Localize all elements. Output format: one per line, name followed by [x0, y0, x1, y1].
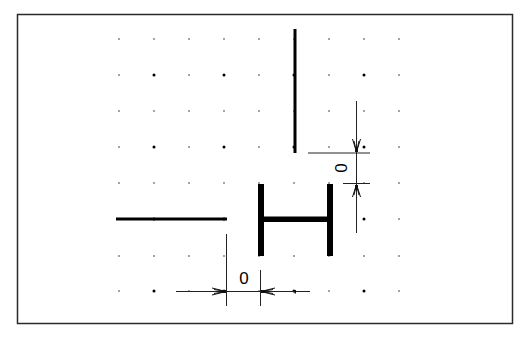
grid-dot: [118, 110, 119, 111]
grid-dot: [188, 255, 189, 256]
diagram-canvas: 0 0: [0, 0, 526, 338]
grid-dot: [153, 255, 154, 256]
grid-dot: [328, 110, 329, 111]
grid-dot-major: [153, 290, 156, 293]
h-shape-left-bar: [258, 184, 264, 256]
grid-dot-major: [153, 74, 156, 77]
grid-dot-major: [223, 146, 226, 149]
grid-dot: [188, 74, 189, 75]
grid-dot: [258, 110, 259, 111]
grid-dot: [398, 255, 399, 256]
grid-dot: [398, 110, 399, 111]
grid-dot: [293, 255, 294, 256]
grid-dot: [328, 38, 329, 39]
grid-dot: [118, 74, 119, 75]
grid-dot: [398, 38, 399, 39]
h-shape-right-bar: [327, 184, 333, 256]
grid-dot: [363, 38, 364, 39]
grid-dot: [153, 110, 154, 111]
grid-dot-major: [223, 74, 226, 77]
grid-dot: [398, 74, 399, 75]
grid-dot: [258, 38, 259, 39]
grid-dot: [398, 146, 399, 147]
grid-dot: [258, 182, 259, 183]
h-shape-crossbar: [264, 217, 327, 223]
grid-dot: [258, 74, 259, 75]
grid-dot: [328, 146, 329, 147]
grid-dot: [188, 38, 189, 39]
grid-dot-major: [363, 218, 366, 221]
vertical-dimension-value: 0: [332, 163, 351, 172]
grid-dot: [188, 146, 189, 147]
grid-dot: [398, 290, 399, 291]
grid-dot: [118, 182, 119, 183]
grid-dot: [188, 182, 189, 183]
grid-dot: [118, 290, 119, 291]
grid-dot: [363, 110, 364, 111]
grid-dot-major: [363, 146, 366, 149]
grid-dot-major: [153, 146, 156, 149]
grid-dot: [118, 146, 119, 147]
grid-dot: [118, 38, 119, 39]
grid-dot: [223, 38, 224, 39]
tick-mark: [295, 290, 297, 294]
grid-dot-major: [363, 74, 366, 77]
grid-dot: [118, 255, 119, 256]
grid-dot: [328, 182, 329, 183]
grid-dot: [398, 218, 399, 219]
grid-dot: [328, 74, 329, 75]
grid-dot: [398, 182, 399, 183]
grid-dot: [363, 255, 364, 256]
grid-dot: [188, 110, 189, 111]
grid-dot: [293, 182, 294, 183]
grid-dot: [223, 110, 224, 111]
drawing-frame: [18, 15, 513, 324]
grid-dot: [258, 146, 259, 147]
grid-dot: [223, 255, 224, 256]
grid-dot: [153, 182, 154, 183]
grid-dot: [223, 182, 224, 183]
horizontal-dimension-value: 0: [239, 269, 248, 288]
grid-dot: [328, 290, 329, 291]
grid-dot: [153, 38, 154, 39]
grid-dot-major: [363, 290, 366, 293]
